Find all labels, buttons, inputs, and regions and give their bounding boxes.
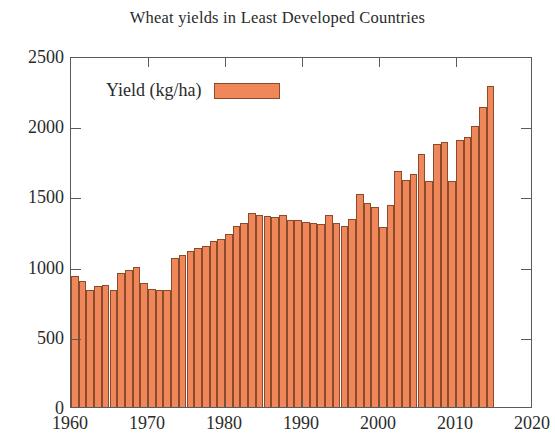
bar — [86, 290, 94, 407]
bar — [125, 270, 133, 407]
y-axis-tick-label: 1500 — [2, 188, 64, 206]
x-axis-tick — [148, 58, 149, 67]
bar — [171, 258, 179, 407]
y-axis-tick — [521, 198, 531, 199]
y-axis-labels: 05001000150020002500 — [0, 57, 64, 408]
bar — [441, 142, 449, 407]
x-axis-tick-label: 2000 — [343, 414, 413, 432]
bar — [110, 290, 118, 407]
bar — [117, 273, 125, 407]
bar — [410, 174, 418, 407]
bar — [433, 144, 441, 407]
y-axis-tick — [71, 198, 81, 199]
y-axis-tick — [521, 269, 531, 270]
bar — [341, 226, 349, 407]
x-axis-tick — [456, 58, 457, 67]
bar — [248, 213, 256, 407]
x-axis-tick — [379, 58, 380, 67]
x-axis-tick — [456, 398, 457, 407]
bar — [348, 219, 356, 407]
x-axis-tick-label: 2010 — [420, 414, 490, 432]
bar — [464, 137, 472, 407]
bar — [325, 215, 333, 407]
bar — [240, 223, 248, 407]
bar — [271, 217, 279, 407]
bar — [210, 241, 218, 407]
x-axis-tick — [225, 398, 226, 407]
bar — [179, 255, 187, 407]
bar — [148, 289, 156, 407]
bar — [317, 224, 325, 407]
bar — [364, 203, 372, 407]
bar — [140, 283, 148, 407]
x-axis-tick-label: 1980 — [189, 414, 259, 432]
bar — [371, 207, 379, 407]
chart-container: Wheat yields in Least Developed Countrie… — [0, 0, 555, 441]
y-axis-tick-label: 2000 — [2, 118, 64, 136]
y-axis-tick-label: 2500 — [2, 48, 64, 66]
bar — [94, 286, 102, 407]
bar — [187, 251, 195, 407]
bar — [387, 205, 395, 407]
bar — [102, 285, 110, 407]
bar — [233, 226, 241, 407]
plot-area: Yield (kg/ha) — [70, 57, 532, 408]
bar — [79, 281, 87, 407]
x-axis-tick — [225, 58, 226, 67]
bar — [487, 86, 495, 407]
bar — [379, 227, 387, 407]
bar-series-yield — [71, 58, 531, 407]
bar — [264, 216, 272, 407]
bar — [163, 290, 171, 407]
bar — [425, 181, 433, 407]
bar — [333, 223, 341, 407]
bar — [133, 267, 141, 407]
bar — [394, 171, 402, 407]
bar — [456, 140, 464, 407]
legend-color-swatch — [214, 83, 280, 99]
y-axis-tick-label: 1000 — [2, 259, 64, 277]
bar — [471, 126, 479, 407]
bar — [217, 239, 225, 407]
legend-label: Yield (kg/ha) — [106, 80, 201, 101]
bar — [402, 180, 410, 407]
x-axis-tick-label: 1970 — [112, 414, 182, 432]
y-axis-tick — [71, 269, 81, 270]
chart-title: Wheat yields in Least Developed Countrie… — [0, 8, 555, 28]
bar — [202, 246, 210, 407]
x-axis-tick — [148, 398, 149, 407]
bar — [225, 234, 233, 407]
y-axis-tick — [71, 339, 81, 340]
bar — [294, 220, 302, 407]
y-axis-tick-label: 500 — [2, 329, 64, 347]
bar — [448, 181, 456, 407]
y-axis-tick — [71, 128, 81, 129]
bar — [356, 194, 364, 407]
bar — [156, 290, 164, 407]
bar — [302, 222, 310, 407]
chart-legend: Yield (kg/ha) — [106, 80, 280, 101]
bar — [479, 107, 487, 407]
bar — [310, 223, 318, 407]
bar — [287, 220, 295, 407]
bar — [279, 215, 287, 407]
plot-inner: Yield (kg/ha) — [71, 58, 531, 407]
x-axis-tick — [302, 58, 303, 67]
bar — [71, 276, 79, 407]
y-axis-tick — [521, 339, 531, 340]
bar — [194, 248, 202, 407]
x-axis-tick — [302, 398, 303, 407]
y-axis-tick — [521, 128, 531, 129]
x-axis-tick-label: 2020 — [497, 414, 555, 432]
bar — [256, 215, 264, 407]
x-axis-tick-label: 1990 — [266, 414, 336, 432]
x-axis-tick — [379, 398, 380, 407]
x-axis-tick-label: 1960 — [35, 414, 105, 432]
bar — [418, 154, 426, 407]
x-axis-labels: 1960197019801990200020102020 — [0, 414, 555, 440]
